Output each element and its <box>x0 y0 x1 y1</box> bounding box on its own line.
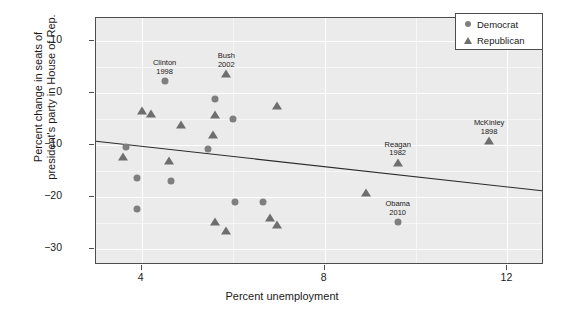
y-axis-title-line2: president's party in House of Rep. <box>45 0 58 217</box>
x-tick-label: 12 <box>501 271 513 283</box>
y-tick-mark <box>89 248 94 249</box>
x-tick-label: 8 <box>321 271 327 283</box>
data-point-republican <box>164 156 174 164</box>
data-point-republican <box>221 70 231 78</box>
y-tick-mark <box>89 196 94 197</box>
data-point-republican <box>210 218 220 226</box>
data-point-republican <box>272 221 282 229</box>
data-point-democrat <box>211 95 218 102</box>
data-point-republican <box>221 227 231 235</box>
legend-item-democrat[interactable]: Democrat <box>460 16 518 32</box>
annotation-mckinley: McKinley1898 <box>474 119 504 136</box>
y-axis-title-line1: Percent change in seats of <box>32 0 45 217</box>
y-tick-mark <box>89 144 94 145</box>
x-axis-title: Percent unemployment <box>0 290 564 302</box>
data-point-democrat <box>230 116 237 123</box>
data-point-republican <box>146 109 156 117</box>
data-point-democrat <box>394 219 401 226</box>
legend: Democrat Republican <box>455 13 543 50</box>
data-point-republican <box>484 137 494 145</box>
data-point-democrat <box>134 175 141 182</box>
data-point-democrat <box>259 199 266 206</box>
circle-marker-icon <box>460 21 476 27</box>
data-point-democrat <box>122 144 129 151</box>
annotation-obama: Obama2010 <box>385 200 410 217</box>
legend-label-democrat: Democrat <box>477 19 518 30</box>
x-tick-mark <box>506 265 507 270</box>
data-point-republican <box>393 158 403 166</box>
annotation-reagan: Reagan1982 <box>385 141 411 158</box>
data-point-republican <box>208 131 218 139</box>
data-point-republican <box>118 152 128 160</box>
legend-item-republican[interactable]: Republican <box>460 32 525 48</box>
y-tick-mark <box>89 92 94 93</box>
x-tick-mark <box>141 265 142 270</box>
x-tick-label: 4 <box>138 271 144 283</box>
x-tick-mark <box>324 265 325 270</box>
data-point-republican <box>272 102 282 110</box>
regression-line <box>96 18 542 263</box>
data-point-democrat <box>205 146 212 153</box>
scatter-plot-figure: Clinton1998Bush2002McKinley1898Reagan198… <box>0 0 564 312</box>
data-point-democrat <box>168 178 175 185</box>
annotation-clinton: Clinton1998 <box>153 59 176 76</box>
y-tick-mark <box>89 40 94 41</box>
annotation-year: 1982 <box>385 149 411 158</box>
y-axis-title: Percent change in seats of president's p… <box>32 0 58 217</box>
annotation-year: 1898 <box>474 128 504 137</box>
legend-label-republican: Republican <box>477 35 525 46</box>
data-point-republican <box>210 111 220 119</box>
y-tick-label: −30 <box>44 241 62 253</box>
data-point-democrat <box>232 199 239 206</box>
plot-panel: Clinton1998Bush2002McKinley1898Reagan198… <box>95 17 543 264</box>
triangle-marker-icon <box>460 37 476 44</box>
data-point-republican <box>176 121 186 129</box>
annotation-year: 2010 <box>385 209 410 218</box>
data-point-republican <box>361 188 371 196</box>
data-point-democrat <box>134 205 141 212</box>
annotation-year: 2002 <box>218 61 235 70</box>
data-point-democrat <box>161 78 168 85</box>
annotation-year: 1998 <box>153 68 176 77</box>
annotation-bush: Bush2002 <box>218 52 235 69</box>
